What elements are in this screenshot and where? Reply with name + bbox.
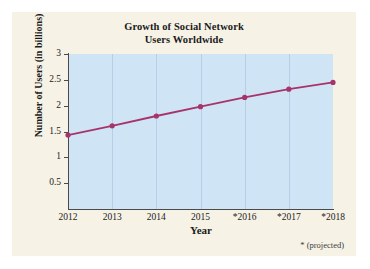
data-point-marker — [65, 133, 70, 138]
data-point-marker — [242, 95, 247, 100]
data-series-layer — [12, 12, 356, 256]
figure-panel: Growth of Social Network Users Worldwide… — [12, 12, 356, 256]
data-point-marker — [110, 123, 115, 128]
data-point-marker — [154, 113, 159, 118]
data-point-marker — [198, 104, 203, 109]
data-point-marker — [330, 80, 335, 85]
data-point-marker — [286, 87, 291, 92]
